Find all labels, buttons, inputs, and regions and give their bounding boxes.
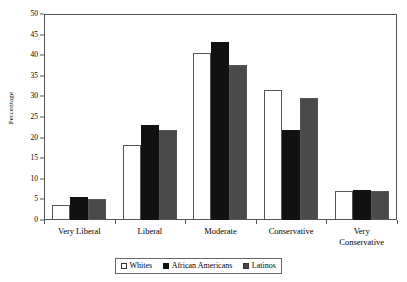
bar-latinos[interactable] [229, 65, 247, 220]
legend-label: African Americans [172, 260, 233, 271]
bar-african-americans[interactable] [70, 197, 88, 220]
legend-swatch-icon [163, 263, 169, 269]
bar-latinos[interactable] [300, 98, 318, 220]
legend-item-whites[interactable]: Whites [121, 260, 152, 271]
y-axis-tick-label: 20 [31, 134, 39, 142]
bar-african-americans[interactable] [282, 130, 300, 220]
x-axis-tick-mark [256, 220, 257, 224]
bar-latinos[interactable] [88, 199, 106, 220]
legend-item-african-americans[interactable]: African Americans [163, 260, 232, 271]
bar-whites[interactable] [52, 205, 70, 220]
y-axis-tick-label: 15 [31, 154, 39, 162]
bar-african-americans[interactable] [211, 42, 229, 220]
chart-legend: WhitesAfrican AmericansLatinos [115, 258, 282, 274]
y-axis-tick-label: 10 [31, 175, 39, 183]
y-axis-tick-label: 45 [31, 31, 39, 39]
bar-group [326, 14, 397, 220]
x-axis-tick-mark [326, 220, 327, 224]
bars-area [44, 14, 397, 220]
bar-whites[interactable] [123, 145, 141, 220]
x-axis-ticks [44, 220, 397, 225]
bar-african-americans[interactable] [141, 125, 159, 220]
y-axis-tick-label: 0 [34, 216, 38, 224]
bar-group [44, 14, 115, 220]
bar-latinos[interactable] [159, 130, 177, 220]
bar-group [185, 14, 256, 220]
bar-group [256, 14, 327, 220]
y-axis-tick-label: 25 [31, 113, 39, 121]
x-axis-tick-mark [115, 220, 116, 224]
y-axis-tick-label: 35 [31, 72, 39, 80]
legend-label: Whites [130, 260, 153, 271]
y-axis-tick-label: 30 [31, 93, 39, 101]
y-axis-tick-label: 5 [34, 196, 38, 204]
x-axis-category-label: Conservative [256, 226, 327, 247]
y-axis-tick-label: 40 [31, 51, 39, 59]
y-axis-ticks: 05101520253035404550 [0, 14, 44, 220]
bar-group [115, 14, 186, 220]
x-axis-labels: Very LiberalLiberalModerateConservativeV… [44, 226, 397, 247]
legend-swatch-icon [243, 263, 249, 269]
bar-whites[interactable] [335, 191, 353, 220]
bar-whites[interactable] [264, 90, 282, 220]
x-axis-category-label: Moderate [185, 226, 256, 247]
legend-swatch-icon [121, 263, 127, 269]
x-axis-tick-mark [397, 220, 398, 224]
y-axis-tick-label: 50 [31, 10, 39, 18]
legend-label: Latinos [252, 260, 276, 271]
x-axis-tick-mark [185, 220, 186, 224]
x-axis-tick-mark [44, 220, 45, 224]
bar-african-americans[interactable] [353, 190, 371, 220]
bar-chart: Percentage 05101520253035404550 Very Lib… [0, 0, 407, 282]
x-axis-category-label: Very Liberal [44, 226, 115, 247]
bar-whites[interactable] [193, 53, 211, 220]
x-axis-category-label: Liberal [115, 226, 186, 247]
x-axis-category-label: Very Conservative [326, 226, 397, 247]
bar-latinos[interactable] [371, 191, 389, 220]
legend-item-latinos[interactable]: Latinos [243, 260, 276, 271]
